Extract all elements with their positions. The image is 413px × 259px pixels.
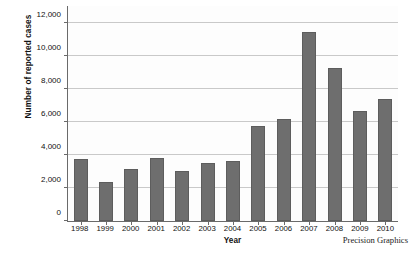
bar-slot <box>119 6 144 221</box>
x-axis-tick-label: 2009 <box>347 224 372 233</box>
bar-slot <box>271 6 296 221</box>
bar <box>302 32 316 221</box>
x-axis-tick-label: 1999 <box>92 224 117 233</box>
x-axis-tick-label: 2000 <box>118 224 143 233</box>
bar <box>251 126 265 221</box>
bar <box>150 158 164 221</box>
bar <box>124 169 138 221</box>
x-axis-tick-label: 2007 <box>296 224 321 233</box>
bar-slot <box>170 6 195 221</box>
y-axis-title: Number of reported cases <box>24 0 33 147</box>
bar <box>353 111 367 221</box>
bar <box>175 171 189 221</box>
x-axis-tick-label: 2003 <box>194 224 219 233</box>
bar-slot <box>297 6 322 221</box>
bar-slot <box>144 6 169 221</box>
y-axis-tick-label: 4,000 <box>41 141 61 150</box>
credit-label: Precision Graphics <box>343 235 408 245</box>
bar-slot <box>347 6 372 221</box>
y-axis-tick-label: 12,000 <box>37 9 61 18</box>
y-axis-tick-label: 0 <box>57 208 61 217</box>
y-axis-tick-label: 6,000 <box>41 108 61 117</box>
bar-slot <box>93 6 118 221</box>
bar-slot <box>246 6 271 221</box>
x-axis-tick-label: 2004 <box>220 224 245 233</box>
y-axis-tick-label: 10,000 <box>37 42 61 51</box>
bar <box>226 161 240 221</box>
x-axis-tick-label: 2006 <box>271 224 296 233</box>
plot-area: 02,0004,0006,0008,00010,00012,000 <box>67 6 398 222</box>
bar <box>378 99 392 221</box>
bar-slot <box>68 6 93 221</box>
y-axis-tick-label: 2,000 <box>41 174 61 183</box>
x-axis-tick-label: 2010 <box>373 224 398 233</box>
x-axis-tick-label: 2001 <box>143 224 168 233</box>
bar <box>99 182 113 221</box>
x-axis-tick-label: 2005 <box>245 224 270 233</box>
x-axis-tick-label: 1998 <box>67 224 92 233</box>
x-axis-tick-label: 2008 <box>322 224 347 233</box>
bar-slot <box>220 6 245 221</box>
bar <box>74 159 88 221</box>
bar <box>201 163 215 221</box>
bar-chart-figure: Number of reported cases 02,0004,0006,00… <box>0 0 413 259</box>
x-axis-tick-labels: 1998199920002001200220032004200520062007… <box>67 224 398 233</box>
bar-slot <box>322 6 347 221</box>
bar <box>328 68 342 221</box>
bar-slot <box>195 6 220 221</box>
bars-layer <box>68 6 398 221</box>
y-axis-tick-label: 8,000 <box>41 75 61 84</box>
x-axis-tick-label: 2002 <box>169 224 194 233</box>
bar <box>277 119 291 221</box>
bar-slot <box>373 6 398 221</box>
